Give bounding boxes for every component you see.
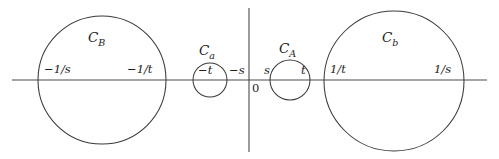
curve-label-c-b-lower-main: C <box>382 29 392 45</box>
tick-label-minus-one-over-t: −1/t <box>127 64 152 76</box>
tick-label-t: t <box>301 65 306 77</box>
origin-label: 0 <box>252 83 259 95</box>
curve-label-c-b-big: CB <box>88 31 105 47</box>
tick-label-minus-one-over-s: −1/s <box>44 64 71 76</box>
tick-label-minus-s: −s <box>229 65 245 77</box>
tick-label-s: s <box>264 65 270 77</box>
curve-label-c-a-small-sub: a <box>209 50 215 61</box>
tick-label-minus-t: −t <box>198 65 212 77</box>
curve-label-c-b-lower-sub: b <box>392 37 398 48</box>
curve-label-c-a-capital: CA <box>279 42 296 58</box>
curve-label-c-a-capital-sub: A <box>289 48 296 59</box>
curve-label-c-b-big-main: C <box>88 29 98 45</box>
circles-diagram: −1/s −1/t −t −s s t 1/t 1/s 0 CB Ca CA C… <box>0 0 499 159</box>
curve-label-c-a-capital-main: C <box>279 40 289 56</box>
curve-label-c-a-small-main: C <box>199 42 209 58</box>
tick-label-one-over-s: 1/s <box>434 64 451 76</box>
curve-label-c-b-lower: Cb <box>382 31 398 47</box>
diagram-canvas <box>0 0 499 159</box>
curve-label-c-b-big-sub: B <box>98 37 105 48</box>
tick-label-one-over-t: 1/t <box>330 64 346 76</box>
curve-label-c-a-small: Ca <box>199 44 215 60</box>
